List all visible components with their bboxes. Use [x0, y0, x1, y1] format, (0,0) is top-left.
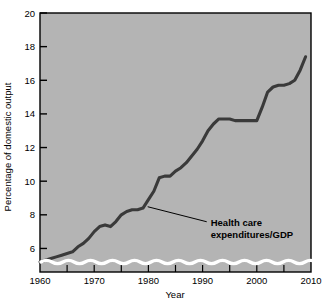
y-tick-label: 6 [30, 243, 35, 254]
annotation-label-line1: Health care [211, 217, 262, 228]
x-tick-label: 1990 [192, 275, 213, 286]
chart-figure: 68101214161820 196019701980199020002010 … [0, 0, 328, 302]
x-tick-label: 2000 [246, 275, 267, 286]
y-tick-label: 12 [24, 142, 35, 153]
y-tick-label: 20 [24, 8, 35, 19]
y-tick-label: 10 [24, 176, 35, 187]
y-tick-label: 8 [30, 209, 35, 220]
y-tick-label: 14 [24, 108, 35, 119]
x-tick-label: 1960 [29, 275, 50, 286]
x-tick-label: 1980 [138, 275, 159, 286]
y-axis-title: Percentage of domestic output [2, 82, 13, 211]
x-axis-title: Year [165, 289, 184, 300]
axis-break-wave [41, 260, 327, 263]
y-tick-label: 18 [24, 41, 35, 52]
x-tick-label: 2010 [300, 275, 321, 286]
y-tick-label: 16 [24, 75, 35, 86]
health-care-gdp-line-chart: 68101214161820 196019701980199020002010 … [0, 0, 328, 302]
annotation-label-line2: expenditures/GDP [211, 229, 294, 240]
x-tick-label: 1970 [84, 275, 105, 286]
